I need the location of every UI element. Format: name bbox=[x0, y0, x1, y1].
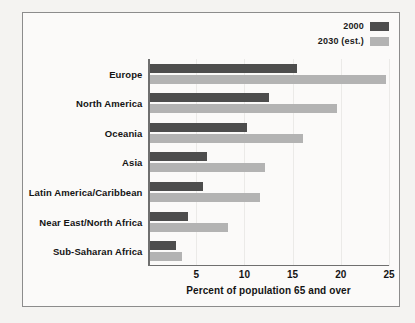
bar-2030 bbox=[150, 223, 228, 232]
bar-group: Sub-Saharan Africa bbox=[150, 236, 183, 266]
bar-2030 bbox=[150, 163, 266, 172]
legend-swatch-2000 bbox=[370, 22, 389, 31]
x-tick-label: 20 bbox=[335, 269, 346, 280]
bar-group: Europe bbox=[150, 59, 386, 89]
category-label: Latin America/Caribbean bbox=[29, 187, 143, 198]
bar-group: Latin America/Caribbean bbox=[150, 177, 261, 207]
category-label: Sub-Saharan Africa bbox=[53, 246, 143, 257]
bar-2030 bbox=[150, 252, 183, 261]
x-axis-line bbox=[148, 265, 389, 267]
legend-swatch-2030 bbox=[370, 37, 389, 46]
x-tick-label: 5 bbox=[193, 269, 199, 280]
category-label: North America bbox=[76, 98, 142, 109]
bar-2030 bbox=[150, 193, 261, 202]
legend-label-2000: 2000 bbox=[343, 21, 364, 31]
bar-2000 bbox=[150, 64, 297, 73]
category-label: Oceania bbox=[105, 127, 143, 138]
bar-2030 bbox=[150, 134, 303, 143]
x-tick-label: 25 bbox=[383, 269, 394, 280]
bar-2000 bbox=[150, 152, 208, 161]
bar-2030 bbox=[150, 104, 337, 113]
x-axis-title: Percent of population 65 and over bbox=[148, 285, 389, 296]
legend-item-2030: 2030 (est.) bbox=[318, 36, 389, 46]
bar-2000 bbox=[150, 123, 247, 132]
bar-group: Oceania bbox=[150, 118, 303, 148]
bar-group: Near East/North Africa bbox=[150, 207, 228, 237]
bar-2000 bbox=[150, 241, 177, 250]
bar-2000 bbox=[150, 212, 189, 221]
gridline bbox=[341, 59, 342, 266]
legend-item-2000: 2000 bbox=[343, 21, 389, 31]
gridline bbox=[389, 59, 390, 266]
category-label: Asia bbox=[122, 157, 142, 168]
bar-group: North America bbox=[150, 89, 337, 119]
legend-label-2030: 2030 (est.) bbox=[318, 36, 364, 46]
bar-group: Asia bbox=[150, 148, 266, 178]
plot-area: EuropeNorth AmericaOceaniaAsiaLatin Amer… bbox=[148, 59, 389, 266]
chart-legend: 2000 2030 (est.) bbox=[318, 21, 389, 46]
x-tick-label: 10 bbox=[239, 269, 250, 280]
bar-2030 bbox=[150, 75, 386, 84]
bar-2000 bbox=[150, 93, 270, 102]
chart-figure: 2000 2030 (est.) EuropeNorth AmericaOcea… bbox=[22, 12, 400, 307]
x-tick-label: 15 bbox=[287, 269, 298, 280]
bar-2000 bbox=[150, 182, 203, 191]
category-label: Near East/North Africa bbox=[39, 216, 142, 227]
category-label: Europe bbox=[109, 68, 142, 79]
